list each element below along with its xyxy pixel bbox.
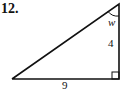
angle-label-w: w [108, 17, 115, 28]
side-length-vertical: 4 [108, 38, 114, 49]
side-length-horizontal: 9 [62, 80, 68, 90]
triangle-outline [12, 4, 119, 79]
right-angle-marker [112, 72, 119, 79]
problem-number: 12. [1, 2, 19, 16]
